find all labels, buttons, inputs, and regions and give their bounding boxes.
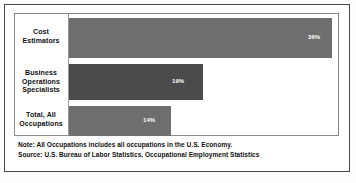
category-label-line: Business (15, 69, 67, 78)
category-label-line: Cost (15, 28, 67, 37)
category-label-cost-estimators: Cost Estimators (15, 28, 67, 45)
category-label-line: Estimators (15, 37, 67, 46)
bar-row: Total, All Occupations 14% (15, 104, 338, 137)
category-label-line: Operations (15, 78, 67, 87)
category-label-total-all-occupations: Total, All Occupations (15, 111, 67, 128)
category-label-business-operations-specialists: Business Operations Specialists (15, 69, 67, 95)
chart-figure: Cost Estimators 36% Business Operations … (0, 0, 356, 183)
footnotes: Note: All Occupations includes all occup… (18, 140, 338, 159)
bar-cost-estimators (69, 18, 332, 58)
plot-area: Cost Estimators 36% Business Operations … (14, 13, 339, 136)
bar-total-all-occupations (69, 106, 171, 136)
bar-row: Cost Estimators 36% (15, 14, 338, 62)
bar-value-total-all-occupations: 14% (143, 117, 155, 123)
bar-row: Business Operations Specialists 19% (15, 62, 338, 104)
bar-value-cost-estimators: 36% (308, 34, 320, 40)
category-label-line: Specialists (15, 86, 67, 95)
category-label-line: Total, All (15, 111, 67, 120)
footnote-source: Source: U.S. Bureau of Labor Statistics,… (18, 150, 338, 160)
bar-value-business-operations-specialists: 19% (172, 78, 184, 84)
category-label-line: Occupations (15, 120, 67, 129)
footnote-note: Note: All Occupations includes all occup… (18, 140, 338, 150)
